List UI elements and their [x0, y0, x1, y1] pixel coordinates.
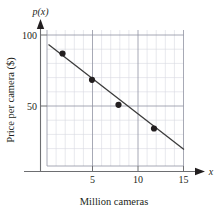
- data-point: [151, 125, 157, 131]
- x-axis-title: Million cameras: [80, 196, 149, 207]
- x-tick-label-5: 5: [90, 174, 95, 185]
- y-tick-marks: [41, 35, 48, 106]
- x-tick-marks: [93, 166, 184, 172]
- y-tick-label-100: 100: [22, 30, 37, 41]
- y-axis-title: Price per camera ($): [5, 57, 17, 143]
- x-axis-variable-name: x: [208, 166, 214, 177]
- grid-major-horizontal: [47, 35, 184, 166]
- chart-canvas: 100 50 5 10 15 p(x) x Million cameras Pr…: [0, 0, 224, 219]
- data-point: [89, 77, 95, 83]
- y-axis: [37, 19, 44, 172]
- x-tick-label-10: 10: [133, 174, 143, 185]
- data-point: [59, 50, 65, 56]
- data-point: [115, 102, 121, 108]
- y-tick-label-50: 50: [27, 101, 37, 112]
- chart-figure: 100 50 5 10 15 p(x) x Million cameras Pr…: [0, 0, 224, 219]
- y-axis-function-name: p(x): [31, 6, 49, 18]
- x-tick-label-15: 15: [179, 174, 189, 185]
- grid-major-vertical: [47, 30, 184, 166]
- grid-minor-vertical: [56, 30, 174, 166]
- fitted-line: [49, 45, 185, 150]
